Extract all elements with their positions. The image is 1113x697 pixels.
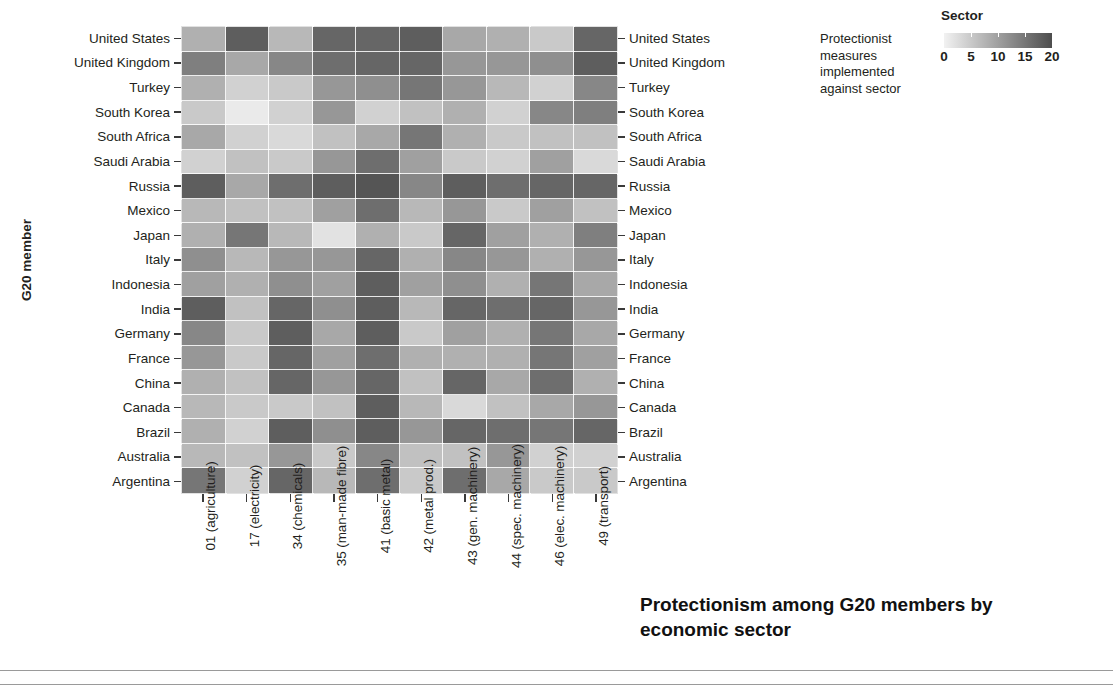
heatmap-cell [356, 27, 400, 52]
legend-tick-label: 10 [990, 49, 1005, 64]
heatmap-cell [443, 395, 487, 420]
y-axis-row-left: Germany [0, 322, 181, 347]
heatmap-cell [182, 125, 226, 150]
heatmap-cell [400, 150, 444, 175]
heatmap-cell [182, 419, 226, 444]
legend-description: Protectionist measures implemented again… [820, 31, 938, 97]
y-axis-label: South Korea [629, 105, 704, 120]
heatmap-cell [487, 346, 531, 371]
heatmap-cell [356, 370, 400, 395]
heatmap-cell [182, 346, 226, 371]
heatmap-cell [313, 223, 357, 248]
heatmap-cell [530, 321, 574, 346]
y-axis-row-right: Germany [618, 322, 818, 347]
heatmap-cell [487, 101, 531, 126]
y-axis-label: Australia [629, 449, 682, 464]
heatmap-cell [574, 297, 618, 322]
heatmap-cell [356, 76, 400, 101]
heatmap-cell [443, 52, 487, 77]
heatmap-cell [182, 52, 226, 77]
heatmap-cell [269, 248, 313, 273]
y-axis-label: Turkey [129, 80, 170, 95]
heatmap-cell [443, 272, 487, 297]
heatmap-cell [182, 27, 226, 52]
y-axis-row-left: China [0, 371, 181, 396]
heatmap-cell [356, 125, 400, 150]
heatmap-cell [226, 27, 270, 52]
y-axis-tick [618, 38, 625, 39]
y-axis-tick [618, 111, 625, 112]
y-axis-row-left: Saudi Arabia [0, 149, 181, 174]
heatmap-cell [443, 297, 487, 322]
heatmap-cell [574, 444, 618, 469]
heatmap-cell [313, 101, 357, 126]
y-axis-label: India [629, 302, 658, 317]
y-axis-row-left: Indonesia [0, 272, 181, 297]
y-axis-tick [618, 308, 625, 309]
legend: Sector Protectionist measures implemente… [820, 8, 1100, 97]
heatmap-cell [400, 52, 444, 77]
heatmap-cell [226, 174, 270, 199]
y-axis-row-left: South Korea [0, 100, 181, 125]
y-axis-label: China [135, 376, 170, 391]
legend-tick-label: 5 [967, 49, 975, 64]
heatmap-cell [443, 27, 487, 52]
heatmap-cell [269, 174, 313, 199]
y-axis-label: South Korea [95, 105, 170, 120]
y-axis-tick [618, 333, 625, 334]
heatmap-cell [400, 395, 444, 420]
y-axis-row-right: Japan [618, 223, 818, 248]
heatmap-cell [226, 76, 270, 101]
y-axis-label: South Africa [97, 129, 170, 144]
y-axis-tick [618, 284, 625, 285]
y-axis-tick [618, 481, 625, 482]
y-axis-row-right: South Korea [618, 100, 818, 125]
heatmap-cell [487, 395, 531, 420]
y-axis-row-left: United Kingdom [0, 51, 181, 76]
heatmap-cell [487, 419, 531, 444]
y-axis-label: United Kingdom [629, 55, 725, 70]
heatmap-cell [313, 174, 357, 199]
y-axis-tick [174, 259, 181, 260]
heatmap-cell [313, 248, 357, 273]
y-axis-tick [174, 358, 181, 359]
y-axis-tick [174, 407, 181, 408]
heatmap-cell [226, 125, 270, 150]
y-axis-label: Japan [629, 228, 666, 243]
heatmap-cell [487, 125, 531, 150]
heatmap-cell [530, 27, 574, 52]
y-axis-label: Italy [145, 252, 170, 267]
y-axis-tick [174, 308, 181, 309]
heatmap-cell [356, 101, 400, 126]
y-axis-row-right: South Africa [618, 125, 818, 150]
x-axis-column: 34 (chemicals) [268, 494, 312, 669]
y-axis-row-left: Australia [0, 445, 181, 470]
y-axis-tick [618, 259, 625, 260]
y-axis-label: Argentina [629, 474, 687, 489]
x-axis-label: 44 (spec. machinery) [509, 444, 524, 568]
heatmap-cell [182, 395, 226, 420]
y-axis-row-right: Canada [618, 395, 818, 420]
heatmap-cell [574, 150, 618, 175]
heatmap-cell [443, 419, 487, 444]
y-axis-tick [618, 62, 625, 63]
y-axis-label: Australia [117, 449, 170, 464]
legend-colorbar: 05101520 [944, 33, 1062, 67]
heatmap-cell [356, 321, 400, 346]
heatmap-cell [313, 395, 357, 420]
y-axis-row-right: Saudi Arabia [618, 149, 818, 174]
y-axis-tick [618, 358, 625, 359]
heatmap-cell [574, 52, 618, 77]
heatmap-cell [313, 346, 357, 371]
footer-divider-bottom [0, 684, 1113, 685]
heatmap-cell [443, 346, 487, 371]
y-axis-row-right: Argentina [618, 469, 818, 494]
y-axis-tick [618, 432, 625, 433]
y-axis-tick [618, 235, 625, 236]
y-axis-row-left: Turkey [0, 75, 181, 100]
y-axis-row-left: Mexico [0, 198, 181, 223]
y-axis-row-right: Italy [618, 248, 818, 273]
y-axis-labels-left: United StatesUnited KingdomTurkeySouth K… [0, 26, 181, 494]
heatmap-cell [574, 199, 618, 224]
heatmap-cell [443, 125, 487, 150]
